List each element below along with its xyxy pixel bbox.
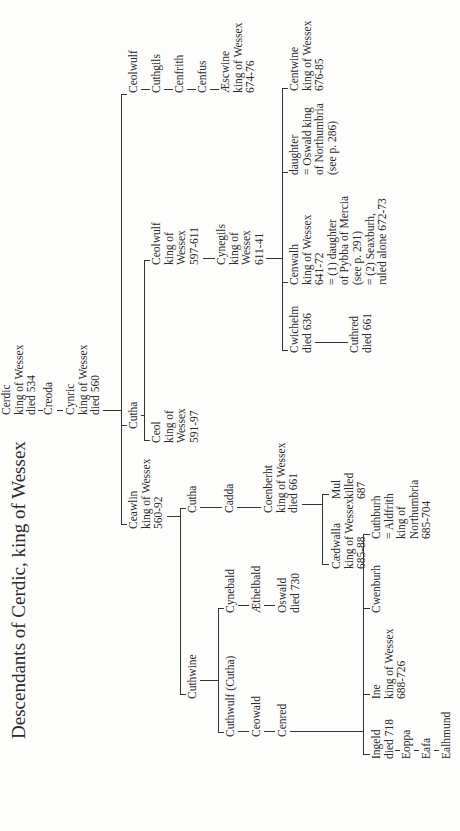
drop-cutha2 [180, 508, 186, 509]
line-ceolwulf2-cynegils [203, 258, 215, 259]
person-name: Cenfus [196, 60, 209, 93]
person-name: Mul [330, 473, 343, 499]
node-ceolwulf-king: Ceolwulfking ofWessex597-611 [150, 222, 200, 265]
diagram-title: Descendants of Cerdic, king of Wessex [8, 441, 30, 739]
person-name: daughter [288, 103, 301, 175]
bar-ceawlin-children [180, 509, 181, 695]
node-cuthred: Cuthreddied 661 [348, 313, 373, 353]
person-name: Cuthwulf (Cutha) [224, 656, 237, 737]
person-name: Ceolwulf [150, 222, 163, 265]
person-name: Eoppa [400, 730, 413, 759]
drop-cuthwulf [218, 732, 224, 733]
person-detail: 560-92 [152, 459, 165, 529]
person-name: Cynric [64, 345, 77, 415]
person-detail: king of Wessex [232, 23, 245, 93]
line-coenberht-down [302, 504, 322, 505]
person-detail: king of Wessex [301, 21, 314, 91]
node-coenberht: Coenberhtking of Wessexdied 661 [262, 443, 300, 513]
node-cuthgils: Cuthgils [150, 54, 163, 93]
person-detail: 688-726 [395, 629, 408, 699]
person-name: Ine [370, 629, 383, 699]
person-name: Cwichelm [288, 306, 301, 353]
line-cynebald-aethelbald [238, 605, 249, 606]
node-eoppa: Eoppa [400, 730, 413, 759]
drop-ingeld [363, 754, 370, 755]
line-ingeld-eoppa [395, 750, 400, 751]
node-centwine: Centwineking of Wessex676-85 [288, 21, 326, 91]
person-name: Ceol [150, 408, 163, 443]
line-ceawlin-down [167, 516, 180, 517]
node-cenfus: Cenfus [196, 60, 209, 93]
node-cynric: Cynricking of Wessexdied 560 [64, 345, 102, 415]
person-detail: Wessex [240, 224, 253, 265]
drop-cutha1 [121, 425, 127, 426]
person-detail: king of Wessex [77, 345, 90, 415]
person-detail: of Northumbria [313, 103, 326, 175]
person-name: Creoda [42, 382, 55, 415]
person-detail: = (1) daughter [326, 196, 339, 285]
bar-cuthwine-children [218, 609, 219, 733]
person-name: Coenberht [262, 443, 275, 513]
node-ingeld: Ingelddied 718 [370, 719, 395, 759]
person-detail: killed [343, 473, 356, 499]
line-cuthwine-down [200, 680, 218, 681]
person-detail: king of [395, 480, 408, 539]
drop-cynebald [218, 608, 224, 609]
genealogy-diagram: Descendants of Cerdic, king of Wessex Ce… [0, 0, 460, 831]
person-detail: king of Wessex [13, 345, 26, 415]
person-name: Ceowald [250, 696, 263, 737]
node-aethelbald: Æthelbald [250, 566, 263, 613]
person-name: Cerdic [0, 345, 13, 415]
node-oswald: Oswalddied 730 [276, 573, 301, 613]
person-detail: Wessex [175, 222, 188, 265]
person-detail: 676-85 [313, 21, 326, 91]
person-detail: 597-611 [188, 222, 201, 265]
person-detail: (see p. 286) [326, 103, 339, 175]
node-ceowald: Ceowald [250, 696, 263, 737]
person-name: Cuthgils [150, 54, 163, 93]
person-detail: 674-76 [244, 23, 257, 93]
node-ealhmund: Ealhmund [440, 712, 453, 759]
line-cadda-coenberht [237, 507, 261, 508]
person-name: Cædwalla [330, 499, 343, 569]
person-name: Æthelbald [250, 566, 263, 613]
node-mul: Mulkilled687 [330, 473, 368, 499]
node-daughter: daughter= Oswald kingof Northumbria(see … [288, 103, 338, 175]
person-detail: = Oswald king [301, 103, 314, 175]
person-name: Cynebald [224, 569, 237, 613]
bar-coenberht-children [322, 495, 323, 565]
person-name: Cadda [223, 484, 236, 513]
person-detail: died 730 [289, 573, 302, 613]
person-name: Cwenburh [370, 565, 383, 613]
person-name: Cenfrith [173, 55, 186, 93]
node-cwenburh: Cwenburh [370, 565, 383, 613]
line-aethelbald-oswald [264, 605, 275, 606]
person-detail: king of [163, 222, 176, 265]
node-cuthburh: Cuthburh= Aldfrithking ofNorthumbria685-… [370, 480, 433, 539]
person-detail: died 560 [89, 345, 102, 415]
person-name: Ceolwulf [127, 50, 140, 93]
person-detail: 591-97 [188, 408, 201, 443]
person-name: Cenred [276, 704, 289, 737]
drop-cuthwine [180, 694, 186, 695]
person-detail: 641-72 [313, 196, 326, 285]
line-eafa-ealhmund [434, 750, 439, 751]
person-name: Æscwine [219, 23, 232, 93]
node-cenfrith: Cenfrith [173, 55, 186, 93]
person-detail: of Pybba of Mercia [338, 196, 351, 285]
line-ceowald-cenred [264, 731, 275, 732]
node-cynegils: Cynegilsking ofWessex611-41 [215, 224, 265, 265]
drop-ceolwulf1 [121, 94, 127, 95]
node-cadda: Cadda [223, 484, 236, 513]
drop-ine [363, 694, 370, 695]
node-cuthwine: Cuthwine [186, 654, 199, 699]
line-cuthwulf-ceowald [238, 731, 249, 732]
line-cynric-children [103, 410, 122, 411]
drop-caedwalla [322, 564, 329, 565]
drop-cwichelm [282, 350, 288, 351]
person-name: Ceawlin [127, 459, 140, 529]
drop-daughter [282, 172, 288, 173]
node-cynebald: Cynebald [224, 569, 237, 613]
node-aescwine: Æscwineking of Wessex674-76 [219, 23, 257, 93]
person-detail: king of [163, 408, 176, 443]
